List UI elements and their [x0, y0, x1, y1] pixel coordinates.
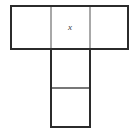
interior-dividers — [11, 6, 128, 88]
net-diagram — [0, 0, 135, 133]
net-outline — [11, 6, 128, 127]
figure-container: x — [0, 0, 135, 133]
